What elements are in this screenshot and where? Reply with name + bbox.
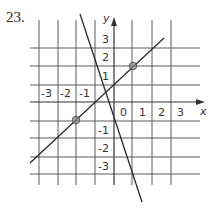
positive-slope-line [30,38,164,163]
x-tick-label: 3 [177,106,184,119]
y-axis-label: y [102,12,110,25]
x-axis-label: x [199,105,207,118]
y-axis-arrow-icon [111,17,117,26]
x-tick-label: 0 [120,106,127,119]
y-tick-label: 1 [102,70,109,83]
y-tick-label: 3 [102,33,109,46]
x-axis [30,99,205,105]
horizontal-grid-lines [30,48,200,174]
y-tick-label: -1 [98,124,109,137]
y-tick-label: 2 [102,51,109,64]
x-tick-label: 2 [158,106,165,119]
x-tick-label: 1 [139,106,146,119]
problem-number: 23. [6,9,25,25]
upper-point-marker [129,62,137,70]
lower-point-marker [72,116,80,124]
y-axis [111,17,117,185]
y-tick-label: -3 [98,160,109,173]
y-tick-label: -2 [98,142,109,155]
x-tick-label: -1 [79,87,90,100]
coordinate-graph: 23. y x -3 -2 -1 0 1 2 3 3 2 1 -1 [0,0,222,208]
x-tick-label: -2 [60,87,71,100]
x-tick-label: -3 [41,87,52,100]
